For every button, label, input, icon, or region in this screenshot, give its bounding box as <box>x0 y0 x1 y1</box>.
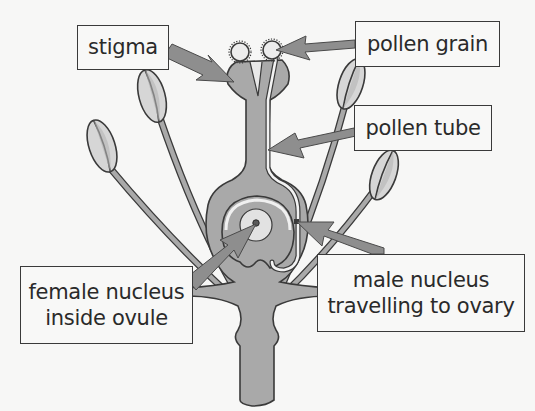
label-male-nucleus-line2: travelling to ovary <box>327 293 514 319</box>
label-pollen-grain: pollen grain <box>355 21 500 67</box>
label-female-nucleus: female nucleus inside ovule <box>20 266 193 344</box>
label-pollen-tube: pollen tube <box>354 105 492 151</box>
label-male-nucleus-line1: male nucleus <box>353 267 489 293</box>
arrow-stigma <box>165 44 234 82</box>
label-female-nucleus-line2: inside ovule <box>45 305 168 331</box>
label-stigma: stigma <box>77 25 169 70</box>
label-pollen-grain-text: pollen grain <box>367 31 488 57</box>
arrow-pollen-grain <box>276 36 355 60</box>
label-male-nucleus: male nucleus travelling to ovary <box>317 254 525 332</box>
label-pollen-tube-text: pollen tube <box>365 115 480 141</box>
label-stigma-text: stigma <box>88 34 158 60</box>
label-female-nucleus-line1: female nucleus <box>28 279 184 305</box>
flower-fertilisation-diagram: stigma pollen grain pollen tube female n… <box>0 0 535 411</box>
arrow-male-nucleus <box>297 222 384 254</box>
arrow-pollen-tube <box>268 128 356 158</box>
